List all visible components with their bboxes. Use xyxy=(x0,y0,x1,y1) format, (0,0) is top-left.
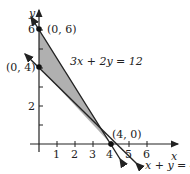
y-axis-label: y xyxy=(28,7,36,20)
point-0-4 xyxy=(36,64,42,70)
label-point-4-0: (4, 0) xyxy=(112,128,142,141)
label-eq-3x-2y-12: 3x + 2y = 12 xyxy=(70,55,143,68)
tick-x-5: 5 xyxy=(125,148,132,161)
label-point-0-4: (0, 4) xyxy=(6,61,36,74)
line-x-y-4 xyxy=(25,54,136,163)
tick-x-2: 2 xyxy=(71,148,78,161)
point-0-6 xyxy=(36,26,42,32)
tick-y-2: 2 xyxy=(28,100,35,113)
graph: y x 1 2 3 4 5 6 2 6 (0, 6) (0, 4) (4, 0)… xyxy=(0,0,190,174)
line-3x-2y-12 xyxy=(31,17,120,159)
tick-x-3: 3 xyxy=(89,148,96,161)
tick-x-4: 4 xyxy=(106,148,113,161)
point-4-0 xyxy=(108,141,114,147)
label-point-0-6: (0, 6) xyxy=(47,23,77,36)
tick-y-6: 6 xyxy=(28,23,35,36)
tick-x-1: 1 xyxy=(53,148,60,161)
label-eq-x-y-4: x + y = 4 xyxy=(145,159,190,172)
